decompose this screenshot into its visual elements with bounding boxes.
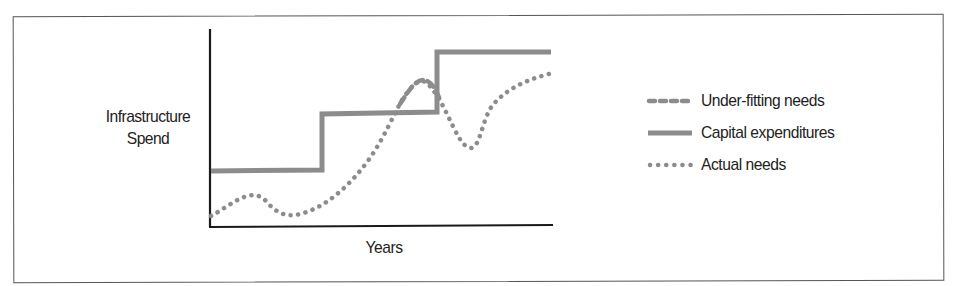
- x-axis: [209, 225, 553, 227]
- capital-expenditures-line: [211, 52, 551, 171]
- legend: Under-fitting needs Capital expenditures…: [646, 85, 846, 181]
- legend-item-actual-needs: Actual needs: [646, 149, 846, 181]
- y-axis-label-line1: Infrastructure: [93, 106, 203, 128]
- legend-label-capital-expenditures: Capital expenditures: [701, 123, 834, 143]
- y-axis-label-line2: Spend: [93, 128, 203, 150]
- legend-item-capital-expenditures: Capital expenditures: [646, 117, 846, 149]
- legend-label-under-fitting: Under-fitting needs: [701, 91, 824, 111]
- dashed-line-swatch-icon: [646, 96, 694, 106]
- legend-label-actual-needs: Actual needs: [701, 155, 786, 175]
- actual-needs-line: [211, 74, 549, 216]
- dotted-line-swatch-icon: [646, 160, 694, 170]
- solid-line-swatch-icon: [646, 128, 694, 138]
- y-axis-label: Infrastructure Spend: [93, 106, 203, 150]
- legend-item-under-fitting: Under-fitting needs: [646, 85, 846, 117]
- under-fitting-needs-line: [400, 80, 440, 104]
- x-axis-label: Years: [344, 238, 425, 258]
